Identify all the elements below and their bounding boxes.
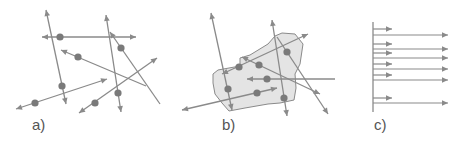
sample-point-dot xyxy=(74,53,81,60)
arrowhead-icon xyxy=(100,78,107,83)
arrowhead-icon xyxy=(386,50,392,56)
parallel-ray xyxy=(373,55,448,61)
parallel-ray xyxy=(373,66,448,72)
arrowhead-icon xyxy=(386,26,392,32)
sample-point-dot xyxy=(58,82,65,89)
sample-point-dot xyxy=(255,61,262,68)
panel-b-rays xyxy=(182,13,335,116)
arrowhead-icon xyxy=(130,34,136,40)
arrowhead-icon xyxy=(442,66,448,72)
arrowhead-icon xyxy=(62,98,67,104)
sample-point-dot xyxy=(263,75,270,82)
sample-point-dot xyxy=(253,89,260,96)
parallel-ray xyxy=(373,77,448,83)
arrowhead-icon xyxy=(150,58,157,64)
arrowhead-icon xyxy=(45,10,50,16)
parallel-ray xyxy=(373,32,448,38)
arrowhead-icon xyxy=(442,55,448,61)
arrowhead-icon xyxy=(210,13,215,19)
parallel-ray xyxy=(373,50,392,56)
arrowhead-icon xyxy=(386,72,392,78)
ray xyxy=(104,15,123,112)
arrowhead-icon xyxy=(182,106,188,111)
panel-a-label: a) xyxy=(32,116,45,133)
arrowhead-icon xyxy=(79,107,86,113)
parallel-ray xyxy=(373,100,448,106)
panel-a-rays xyxy=(16,10,160,113)
diagram-canvas: a) b) c) xyxy=(0,0,463,142)
sample-point-dot xyxy=(56,33,63,40)
panel-c-label: c) xyxy=(374,116,387,133)
arrowhead-icon xyxy=(386,61,392,67)
arrowhead-icon xyxy=(442,100,448,106)
arrowhead-icon xyxy=(442,46,448,52)
sample-point-dot xyxy=(117,44,124,51)
panel-c-parallel-rays xyxy=(373,22,448,112)
arrowhead-icon xyxy=(104,15,110,21)
ray-line xyxy=(46,10,66,104)
sample-point-dot xyxy=(283,48,290,55)
ray xyxy=(42,33,136,40)
arrowhead-icon xyxy=(16,104,23,109)
arrowhead-icon xyxy=(386,95,392,101)
parallel-ray xyxy=(373,46,448,52)
parallel-ray xyxy=(373,95,392,101)
parallel-ray xyxy=(373,26,392,32)
sample-point-dot xyxy=(31,99,38,106)
parallel-ray xyxy=(373,72,392,78)
arrowhead-icon xyxy=(442,77,448,83)
panel-b-label: b) xyxy=(222,116,235,133)
arrowhead-icon xyxy=(442,32,448,38)
sample-point-dot xyxy=(280,94,287,101)
sample-point-dot xyxy=(224,85,231,92)
ray xyxy=(45,10,68,104)
arrowhead-icon xyxy=(42,34,48,40)
sample-point-dot xyxy=(114,89,121,96)
parallel-ray xyxy=(373,61,392,67)
arrowhead-icon xyxy=(117,106,123,112)
ray-line xyxy=(106,15,121,112)
parallel-ray xyxy=(373,41,392,47)
arrowhead-icon xyxy=(270,20,276,26)
arrowhead-icon xyxy=(322,107,328,114)
arrowhead-icon xyxy=(283,110,289,116)
sample-point-dot xyxy=(91,99,98,106)
arrowhead-icon xyxy=(386,41,392,47)
sample-point-dot xyxy=(235,63,242,70)
